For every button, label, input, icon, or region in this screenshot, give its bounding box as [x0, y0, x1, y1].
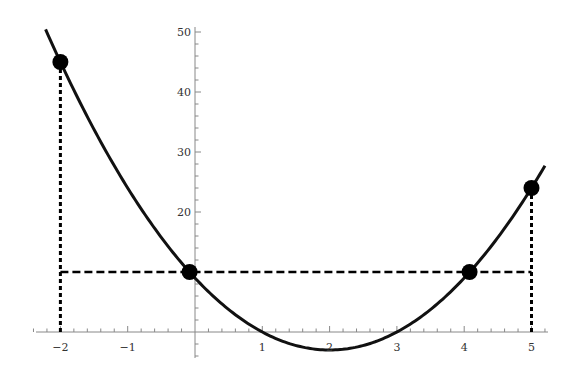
- data-point: [462, 264, 478, 280]
- x-tick-label: 1: [259, 341, 266, 354]
- curve: [46, 29, 545, 350]
- x-tick-label: 4: [461, 341, 468, 354]
- axes: [33, 27, 548, 358]
- data-point: [524, 180, 540, 196]
- y-tick-label: 40: [177, 86, 191, 99]
- parabola-curve: [46, 29, 545, 350]
- y-tick-label: 50: [177, 26, 191, 39]
- x-tick-label: 5: [528, 341, 535, 354]
- y-tick-label: 30: [177, 146, 191, 159]
- data-point: [52, 54, 68, 70]
- y-tick-label: 20: [177, 206, 191, 219]
- x-tick-label: 2: [326, 341, 333, 354]
- tick-labels: −2−11234520304050: [52, 26, 535, 354]
- data-point: [182, 264, 198, 280]
- data-points: [52, 54, 539, 280]
- parabola-chart: −2−11234520304050: [0, 0, 579, 374]
- x-tick-label: −1: [120, 341, 136, 354]
- reference-lines: [60, 62, 531, 332]
- x-tick-label: 3: [393, 341, 400, 354]
- x-tick-label: −2: [52, 341, 68, 354]
